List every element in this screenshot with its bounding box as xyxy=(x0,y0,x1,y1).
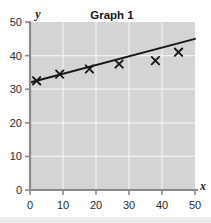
x-tick-label: 40 xyxy=(156,199,168,211)
x-tick-label: 0 xyxy=(27,199,33,211)
y-axis-label: y xyxy=(33,7,41,21)
plot-area-background xyxy=(30,22,195,190)
x-tick-label: 10 xyxy=(57,199,69,211)
scatter-chart-canvas: Graph 1 xyxy=(0,0,211,223)
x-tick-label: 20 xyxy=(90,199,102,211)
y-tick-label: 20 xyxy=(10,117,22,129)
y-tick-label: 50 xyxy=(10,16,22,28)
y-tick-label: 30 xyxy=(10,83,22,95)
y-tick-label: 40 xyxy=(10,50,22,62)
page-footer-band xyxy=(0,217,211,223)
chart-title: Graph 1 xyxy=(90,9,134,21)
x-axis-label: x xyxy=(199,179,206,193)
x-tick-label: 50 xyxy=(189,199,201,211)
y-tick-label: 10 xyxy=(10,150,22,162)
graph-1-figure: Graph 1 xyxy=(0,0,211,223)
x-tick-label: 30 xyxy=(123,199,135,211)
y-tick-label: 0 xyxy=(16,184,22,196)
